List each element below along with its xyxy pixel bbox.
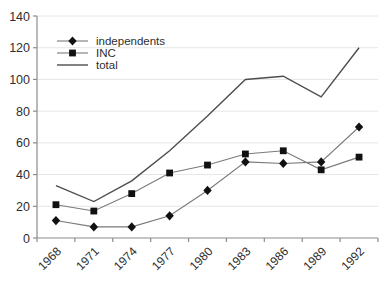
diamond-marker-independents: [241, 157, 249, 166]
diamond-marker-independents: [128, 222, 136, 231]
square-marker-INC: [242, 151, 249, 158]
x-tick-label: 1968: [35, 244, 64, 273]
diamond-marker-independents: [165, 211, 173, 220]
square-marker-INC: [128, 190, 135, 197]
legend-diamond-icon: [68, 36, 76, 45]
y-tick-label: 80: [16, 105, 30, 119]
diamond-marker-independents: [203, 186, 211, 195]
line-chart: 0204060801001201401968197119741977198019…: [0, 0, 390, 285]
series-line-independents: [56, 127, 359, 227]
y-tick-label: 60: [16, 136, 30, 150]
x-tick-label: 1977: [149, 244, 178, 273]
square-marker-INC: [53, 201, 60, 208]
y-tick-label: 0: [23, 232, 30, 246]
y-tick-label: 140: [9, 10, 30, 24]
diamond-marker-independents: [279, 159, 287, 168]
y-tick-label: 20: [16, 200, 30, 214]
x-tick-label: 1983: [225, 244, 254, 273]
square-marker-INC: [318, 166, 325, 173]
square-marker-INC: [356, 154, 363, 161]
legend-label-independents: independents: [96, 35, 165, 47]
x-tick-label: 1992: [338, 244, 367, 273]
y-tick-label: 120: [9, 41, 30, 55]
x-tick-label: 1974: [111, 244, 140, 273]
y-tick-label: 40: [16, 168, 30, 182]
x-tick-label: 1971: [73, 244, 102, 273]
legend-square-icon: [69, 50, 76, 57]
square-marker-INC: [204, 162, 211, 169]
diamond-marker-independents: [52, 216, 60, 225]
series-line-INC: [56, 151, 359, 211]
square-marker-INC: [166, 170, 173, 177]
x-tick-label: 1980: [187, 244, 216, 273]
legend-label-total: total: [96, 59, 118, 71]
square-marker-INC: [90, 208, 97, 215]
x-tick-label: 1989: [301, 244, 330, 273]
y-tick-label: 100: [9, 73, 30, 87]
x-tick-label: 1986: [263, 244, 292, 273]
diamond-marker-independents: [90, 222, 98, 231]
legend-label-INC: INC: [96, 47, 116, 59]
chart-container: 0204060801001201401968197119741977198019…: [0, 0, 390, 285]
square-marker-INC: [280, 147, 287, 154]
